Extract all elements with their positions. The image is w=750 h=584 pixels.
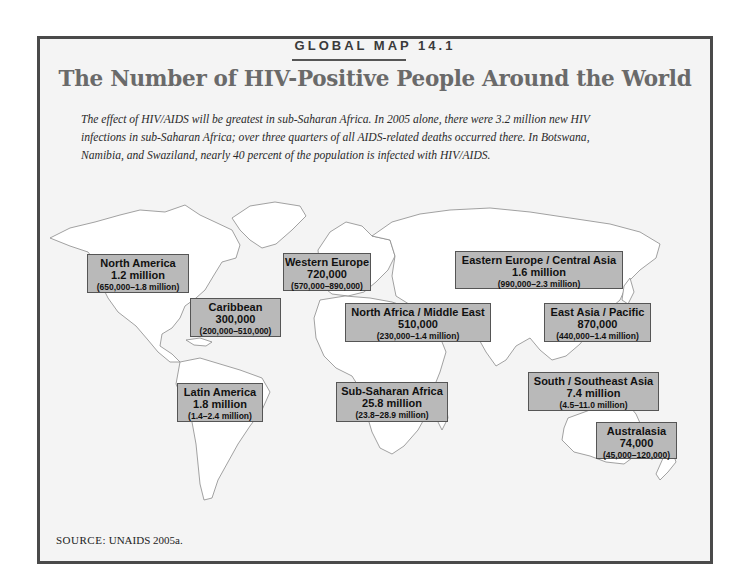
region-label-east-asia-pacific: East Asia / Pacific 870,000 (440,000–1.4… <box>544 303 651 342</box>
region-label-western-europe: Western Europe 720,000 (570,000–890,000) <box>283 253 371 291</box>
region-name: Western Europe <box>284 256 370 268</box>
region-range: (1.4–2.4 million) <box>178 410 262 422</box>
region-range: (45,000–120,000) <box>597 449 676 461</box>
region-label-latin-america: Latin America 1.8 million (1.4–2.4 milli… <box>177 383 263 422</box>
region-value: 720,000 <box>284 268 370 280</box>
region-value: 7.4 million <box>529 387 658 399</box>
region-range: (440,000–1.4 million) <box>545 330 650 342</box>
region-value: 1.2 million <box>88 269 188 281</box>
region-range: (23.8–28.9 million) <box>337 409 447 421</box>
region-label-north-africa-middle-east: North Africa / Middle East 510,000 (230,… <box>345 303 491 342</box>
region-value: 25.8 million <box>337 397 447 409</box>
region-name: South / Southeast Asia <box>529 375 658 387</box>
region-label-australasia: Australasia 74,000 (45,000–120,000) <box>596 422 677 459</box>
region-name: Australasia <box>597 425 676 437</box>
region-value: 74,000 <box>597 437 676 449</box>
region-label-eastern-europe-central-asia: Eastern Europe / Central Asia 1.6 millio… <box>455 251 623 289</box>
region-name: Eastern Europe / Central Asia <box>456 254 622 266</box>
region-value: 870,000 <box>545 318 650 330</box>
region-label-sub-saharan-africa: Sub-Saharan Africa 25.8 million (23.8–28… <box>336 382 448 422</box>
region-label-north-america: North America 1.2 million (650,000–1.8 m… <box>87 254 189 293</box>
region-range: (4.5–11.0 million) <box>529 399 658 411</box>
region-name: Caribbean <box>191 301 280 313</box>
region-value: 510,000 <box>346 318 490 330</box>
region-name: Sub-Saharan Africa <box>337 385 447 397</box>
region-name: North America <box>88 257 188 269</box>
region-label-caribbean: Caribbean 300,000 (200,000–510,000) <box>190 298 281 337</box>
source-label: SOURCE: <box>56 534 106 546</box>
region-label-south-southeast-asia: South / Southeast Asia 7.4 million (4.5–… <box>528 372 659 411</box>
greenland-landmass <box>232 202 306 248</box>
region-range: (650,000–1.8 million) <box>88 281 188 293</box>
region-range: (200,000–510,000) <box>191 325 280 337</box>
region-name: East Asia / Pacific <box>545 306 650 318</box>
region-value: 1.6 million <box>456 266 622 278</box>
source-note: SOURCE: UNAIDS 2005a. <box>56 534 183 546</box>
region-value: 1.8 million <box>178 398 262 410</box>
region-name: North Africa / Middle East <box>346 306 490 318</box>
region-range: (570,000–890,000) <box>284 280 370 292</box>
region-name: Latin America <box>178 386 262 398</box>
region-range: (990,000–2.3 million) <box>456 278 622 290</box>
south-america-landmass <box>176 358 270 500</box>
caribbean-landmass <box>186 338 212 346</box>
source-text: UNAIDS 2005a. <box>109 534 183 546</box>
region-value: 300,000 <box>191 313 280 325</box>
region-range: (230,000–1.4 million) <box>346 330 490 342</box>
